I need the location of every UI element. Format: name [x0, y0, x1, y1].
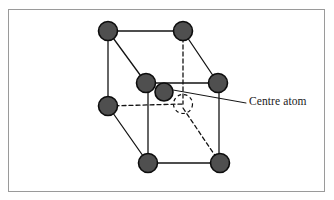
- figure-root: Centre atom: [0, 0, 334, 200]
- back-bottom-left-to-front-bottom-left: [108, 106, 148, 163]
- lattice-atom-back-top-left: [99, 22, 118, 41]
- centre-atom-label: Centre atom: [249, 95, 307, 107]
- lattice-atom-back-bottom-left: [99, 97, 118, 116]
- centre-atom: [155, 83, 173, 101]
- lattice-atom-front-top-right: [209, 74, 228, 93]
- lattice-atom-front-bottom-left: [139, 154, 158, 173]
- leader-line-group: [173, 90, 246, 103]
- back-bottom-edge: [108, 104, 183, 106]
- lattice-atom-back-top-right: [174, 22, 193, 41]
- centre-atom-leader: [173, 90, 246, 103]
- lattice-atom-front-top-left: [137, 74, 156, 93]
- lattice-atom-front-bottom-right: [211, 154, 230, 173]
